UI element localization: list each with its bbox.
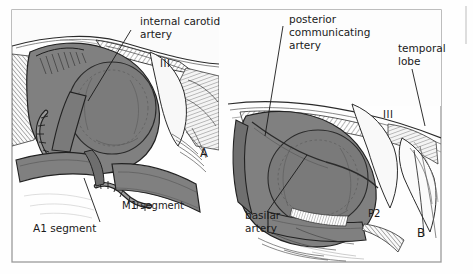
label-panel-b: B (417, 226, 425, 240)
label-temporal-lobe-line2: lobe (398, 55, 420, 67)
label-cranial-nerve-three-right: III (383, 109, 394, 120)
label-basilar-artery-line1: basilar (245, 209, 281, 221)
label-a1-segment: A1 segment (33, 222, 96, 234)
label-internal-carotid-artery-line1: internal carotid (140, 15, 220, 27)
label-cranial-nerve-three-left: III (160, 58, 171, 69)
label-panel-a: A (200, 146, 208, 160)
label-temporal-lobe-line1: temporal (398, 42, 446, 54)
label-m1-segment: M1 segment (122, 200, 184, 211)
label-posterior-communicating-artery-line3: artery (289, 39, 321, 51)
label-posterior-communicating-artery-line1: posterior (289, 13, 337, 25)
label-internal-carotid-artery-line2: artery (140, 28, 172, 40)
anatomy-illustration: internal carotid artery posterior commun… (0, 0, 473, 274)
label-posterior-communicating-artery-line2: communicating (289, 26, 370, 38)
anatomy-figure-root: internal carotid artery posterior commun… (0, 0, 473, 274)
label-basilar-artery-line2: artery (245, 222, 277, 234)
label-p2-segment: P2 (368, 208, 380, 219)
